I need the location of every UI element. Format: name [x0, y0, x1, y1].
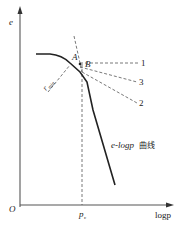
x-axis-arrow-icon: [166, 203, 174, 208]
curve-label: e-logp: [111, 140, 134, 150]
line-1-label: 1: [141, 58, 146, 68]
y-axis-label: e: [9, 17, 13, 27]
curve-label-cn: 曲线: [139, 140, 155, 150]
line-3-label: 3: [139, 77, 144, 87]
pc-subscript: c: [84, 215, 87, 220]
origin-label: O: [9, 204, 16, 214]
point-a-label: A: [71, 52, 78, 62]
line-2-label: 2: [139, 98, 144, 108]
y-axis-arrow-icon: [18, 6, 23, 14]
e-logp-diagram: e O logp A B 1 3 2 r min p c e-logp 曲线: [0, 0, 182, 225]
rmin-label: r min: [41, 77, 57, 93]
point-b-marker: [79, 63, 82, 66]
diagram-canvas: e O logp A B 1 3 2 r min p c e-logp 曲线: [0, 0, 182, 225]
x-axis-label: logp: [155, 210, 172, 220]
e-logp-curve: [36, 54, 115, 185]
line-3: [80, 67, 137, 82]
point-b-label: B: [85, 59, 91, 69]
svg-text:min: min: [47, 80, 56, 90]
